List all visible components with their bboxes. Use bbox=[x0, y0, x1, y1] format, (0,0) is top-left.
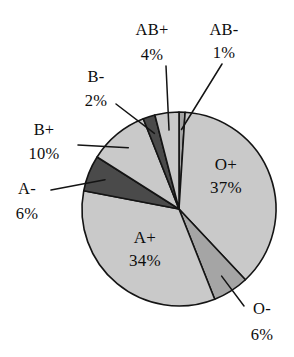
slice-label-aminus: A- bbox=[18, 179, 36, 198]
slice-value-abplus: 4% bbox=[141, 45, 163, 64]
slice-value-aminus: 6% bbox=[16, 204, 38, 223]
pie-chart-canvas: AB-1%O+37%O-6%A+34%A-6%B+10%B-2%AB+4% bbox=[0, 0, 294, 357]
pie-slices-group bbox=[82, 112, 276, 306]
slice-value-bplus: 10% bbox=[29, 144, 60, 163]
slice-value-abminus: 1% bbox=[213, 43, 235, 62]
slice-value-aplus: 34% bbox=[129, 251, 161, 270]
slice-label-bplus: B+ bbox=[34, 120, 55, 139]
pie-chart: AB-1%O+37%O-6%A+34%A-6%B+10%B-2%AB+4% bbox=[0, 0, 294, 357]
slice-label-abminus: AB- bbox=[209, 20, 238, 39]
slice-label-bminus: B- bbox=[88, 67, 105, 86]
slice-label-abplus: AB+ bbox=[136, 20, 169, 39]
slice-label-oplus: O+ bbox=[215, 155, 237, 174]
slice-label-ominus: O- bbox=[253, 299, 271, 318]
slice-value-bminus: 2% bbox=[85, 91, 107, 110]
slice-label-aplus: A+ bbox=[134, 228, 156, 247]
slice-value-oplus: 37% bbox=[210, 178, 242, 197]
slice-value-ominus: 6% bbox=[251, 325, 273, 344]
